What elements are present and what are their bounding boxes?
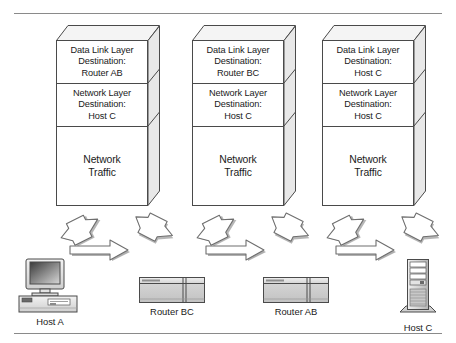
- stack-2-network-layer-segment: Network Layer Destination: Host C: [192, 83, 284, 127]
- destination-label: Destination:: [214, 99, 261, 111]
- arrow-up-right-icon: [193, 210, 243, 250]
- device-label-router-bc: Router BC: [127, 306, 217, 317]
- layer-name: Data Link Layer: [337, 45, 400, 57]
- packet-stack-3: Data Link Layer Destination: Host C Netw…: [322, 25, 426, 205]
- arrow-up-right-icon: [57, 210, 107, 250]
- device-label-host-c: Host C: [385, 322, 451, 333]
- arrow-up-right-icon: [323, 210, 373, 250]
- stack-side-face: [284, 40, 296, 206]
- arrow-down-right-icon: [396, 208, 444, 250]
- destination-value: Host C: [354, 111, 381, 123]
- destination-value: Host C: [354, 68, 381, 80]
- network-diagram: Data Link Layer Destination: Router AB N…: [0, 0, 456, 343]
- stack-3-payload-segment: Network Traffic: [322, 126, 414, 206]
- device-label-router-ab: Router AB: [251, 306, 341, 317]
- payload-line-2: Traffic: [224, 166, 252, 179]
- payload-line-1: Network: [83, 153, 120, 166]
- destination-label: Destination:: [78, 99, 125, 111]
- device-router-bc: Router BC: [139, 277, 205, 303]
- destination-label: Destination:: [78, 56, 125, 68]
- destination-value: Router AB: [82, 68, 123, 80]
- device-router-ab: Router AB: [263, 277, 329, 303]
- device-host-a: Host A: [18, 258, 82, 314]
- stack-side-face: [414, 40, 426, 206]
- stack-2-data-link-layer-segment: Data Link Layer Destination: Router BC: [192, 40, 284, 84]
- destination-label: Destination:: [214, 56, 261, 68]
- arrow-group-2: [196, 212, 336, 262]
- destination-value: Host C: [88, 111, 115, 123]
- arrow-group-1: [60, 212, 200, 262]
- device-label-host-a: Host A: [18, 316, 82, 327]
- stack-2-payload-segment: Network Traffic: [192, 126, 284, 206]
- bottom-divider-rule: [14, 333, 442, 334]
- stack-top-face: [322, 25, 426, 41]
- payload-line-2: Traffic: [88, 166, 116, 179]
- packet-stack-1: Data Link Layer Destination: Router AB N…: [56, 25, 160, 205]
- router-icon: [139, 277, 205, 303]
- device-host-c: Host C: [396, 258, 440, 320]
- layer-name: Network Layer: [73, 88, 131, 100]
- stack-top-face: [192, 25, 296, 41]
- destination-value: Host C: [224, 111, 251, 123]
- arrow-down-right-icon: [266, 208, 314, 250]
- payload-line-1: Network: [349, 153, 386, 166]
- stack-top-face: [56, 25, 160, 41]
- arrow-down-right-icon: [130, 208, 178, 250]
- stack-3-data-link-layer-segment: Data Link Layer Destination: Host C: [322, 40, 414, 84]
- payload-line-2: Traffic: [354, 166, 382, 179]
- router-icon: [263, 277, 329, 303]
- top-divider-rule: [14, 13, 442, 14]
- arrow-group-3: [326, 212, 456, 262]
- layer-name: Network Layer: [339, 88, 397, 100]
- layer-name: Data Link Layer: [207, 45, 270, 57]
- layer-name: Network Layer: [209, 88, 267, 100]
- layer-name: Data Link Layer: [71, 45, 134, 57]
- stack-1-payload-segment: Network Traffic: [56, 126, 148, 206]
- destination-value: Router BC: [217, 68, 259, 80]
- stack-3-network-layer-segment: Network Layer Destination: Host C: [322, 83, 414, 127]
- stack-side-face: [148, 40, 160, 206]
- packet-stack-2: Data Link Layer Destination: Router BC N…: [192, 25, 296, 205]
- payload-line-1: Network: [219, 153, 256, 166]
- stack-1-data-link-layer-segment: Data Link Layer Destination: Router AB: [56, 40, 148, 84]
- destination-label: Destination:: [344, 56, 391, 68]
- stack-1-network-layer-segment: Network Layer Destination: Host C: [56, 83, 148, 127]
- tower-server-icon: [396, 258, 440, 320]
- destination-label: Destination:: [344, 99, 391, 111]
- desktop-computer-icon: [18, 258, 82, 314]
